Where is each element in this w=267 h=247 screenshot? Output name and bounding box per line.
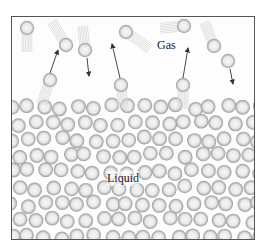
gas-molecule [177, 19, 191, 33]
liquid-molecule [69, 228, 84, 243]
arrow-icon [87, 58, 89, 76]
liquid-molecule [54, 162, 69, 177]
liquid-molecule [152, 131, 167, 146]
liquid-molecule [168, 131, 183, 146]
liquid-molecule [86, 194, 101, 209]
liquid-molecule [172, 230, 187, 245]
liquid-molecule [11, 118, 26, 133]
liquid-molecule [262, 182, 267, 197]
arrow-icon [112, 44, 120, 78]
liquid-molecule [76, 146, 91, 161]
liquid-molecule [211, 180, 226, 195]
liquid-molecule [37, 100, 52, 115]
liquid-molecule [138, 165, 153, 180]
liquid-molecule [38, 162, 53, 177]
liquid-molecule [29, 213, 44, 228]
liquid-molecule [78, 115, 93, 130]
liquid-molecule [112, 150, 127, 165]
liquid-molecule [46, 115, 61, 130]
liquid-molecule [93, 118, 108, 133]
gas-molecule [119, 25, 133, 39]
liquid-molecule [201, 99, 216, 114]
liquid-molecule [250, 134, 265, 149]
liquid-molecule [111, 212, 126, 227]
liquid-molecule [250, 195, 265, 210]
gas-molecule [114, 78, 128, 92]
liquid-molecule [218, 196, 233, 211]
liquid-molecule [69, 197, 84, 212]
gas-molecule [221, 54, 235, 68]
molecules-layer [0, 0, 267, 247]
liquid-molecule [6, 163, 21, 178]
liquid-molecule [60, 117, 75, 132]
liquid-molecule [162, 117, 177, 132]
liquid-molecule [217, 131, 232, 146]
liquid-molecule [194, 114, 209, 129]
liquid-molecule [52, 101, 67, 116]
liquid-molecule [69, 133, 84, 148]
liquid-molecule [252, 166, 267, 181]
liquid-molecule [96, 149, 111, 164]
liquid-molecule [252, 229, 267, 244]
liquid-molecule [184, 162, 199, 177]
liquid-molecule [55, 195, 70, 210]
liquid-molecule [30, 148, 45, 163]
liquid-molecule [159, 146, 174, 161]
liquid-molecule [145, 115, 160, 130]
gas-molecule [78, 43, 92, 57]
liquid-molecule [64, 181, 79, 196]
liquid-molecule [135, 198, 150, 213]
liquid-molecule [244, 180, 259, 195]
gas-label: Gas [157, 38, 176, 53]
arrow-icon [230, 69, 233, 84]
liquid-molecule [163, 211, 178, 226]
vaporization-diagram: Gas Liquid [0, 0, 267, 247]
liquid-molecule [110, 118, 125, 133]
liquid-molecule [260, 116, 267, 131]
liquid-molecule [118, 196, 133, 211]
liquid-molecule [128, 211, 143, 226]
liquid-molecule [241, 147, 256, 162]
liquid-molecule [177, 178, 192, 193]
liquid-molecule [228, 182, 243, 197]
liquid-molecule [60, 214, 75, 229]
liquid-molecule [36, 230, 51, 245]
liquid-molecule [21, 199, 36, 214]
arrow-icon [50, 50, 58, 73]
gas-molecule [207, 39, 221, 53]
liquid-molecule [196, 181, 211, 196]
liquid-molecule [145, 183, 160, 198]
liquid-molecule [221, 98, 236, 113]
liquid-molecule [204, 195, 219, 210]
liquid-molecule [237, 230, 252, 245]
liquid-molecule [187, 196, 202, 211]
liquid-molecule [235, 164, 250, 179]
liquid-molecule [6, 229, 21, 244]
liquid-molecule [44, 150, 59, 165]
liquid-molecule [137, 98, 152, 113]
liquid-molecule [226, 214, 241, 229]
liquid-molecule [203, 230, 218, 245]
liquid-molecule [121, 133, 136, 148]
liquid-molecule [217, 165, 232, 180]
liquid-molecule [36, 131, 51, 146]
liquid-molecule [238, 197, 253, 212]
liquid-molecule [19, 98, 34, 113]
liquid-molecule [85, 166, 100, 181]
liquid-molecule [208, 115, 223, 130]
liquid-molecule [71, 99, 86, 114]
liquid-molecule [143, 214, 158, 229]
liquid-molecule [212, 213, 227, 228]
liquid-molecule [106, 134, 121, 149]
liquid-molecule [196, 146, 211, 161]
liquid-molecule [153, 100, 168, 115]
liquid-molecule [246, 215, 261, 230]
liquid-molecule [13, 212, 28, 227]
liquid-molecule [259, 147, 267, 162]
liquid-molecule [29, 114, 44, 129]
liquid-molecule [4, 134, 19, 149]
motion-arrows [50, 44, 233, 84]
liquid-molecule [201, 163, 216, 178]
liquid-molecule [86, 227, 101, 242]
liquid-molecule [46, 181, 61, 196]
